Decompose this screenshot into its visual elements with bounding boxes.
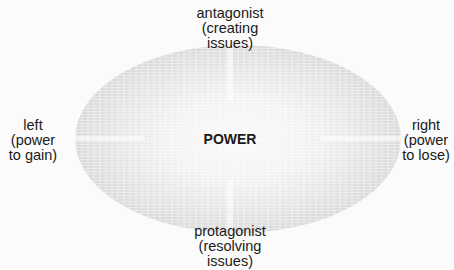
bottom-label-line: protagonist — [177, 224, 283, 239]
bottom-label-protagonist: protagonist (resolving issues) — [177, 224, 283, 269]
right-label-line: to lose) — [396, 148, 454, 163]
left-label-line: (power — [0, 133, 66, 148]
vertical-axis-gap-top — [227, 45, 233, 100]
center-label-power: POWER — [180, 131, 280, 147]
left-label: left (power to gain) — [0, 118, 66, 163]
right-label-line: right — [396, 118, 454, 133]
bottom-label-line: (resolving — [177, 239, 283, 254]
top-label-antagonist: antagonist (creating issues) — [180, 6, 280, 51]
horizontal-axis-gap-right — [320, 136, 401, 141]
horizontal-axis-gap-left — [75, 136, 145, 141]
bottom-label-line: issues) — [177, 254, 283, 269]
top-label-line: (creating — [180, 21, 280, 36]
left-label-line: left — [0, 118, 66, 133]
right-label-line: (power — [396, 133, 454, 148]
top-label-line: issues) — [180, 36, 280, 51]
left-label-line: to gain) — [0, 148, 66, 163]
top-label-line: antagonist — [180, 6, 280, 21]
right-label: right (power to lose) — [396, 118, 454, 163]
